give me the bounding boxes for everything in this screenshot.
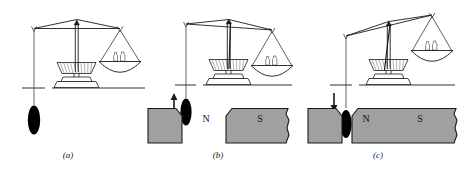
panel-a xyxy=(22,20,145,135)
weighing-pan-a xyxy=(99,30,141,72)
weighing-pan-c xyxy=(411,17,453,62)
panel-caption-b: (b) xyxy=(198,150,238,160)
pointer-scale-a xyxy=(57,63,96,74)
calibration-weights-c xyxy=(426,41,437,50)
balance-base-c xyxy=(366,69,411,85)
magnet-pole-label-south-c: S xyxy=(412,113,428,124)
sample-suspension-a xyxy=(28,30,40,135)
magnet-north-c xyxy=(308,109,342,144)
magnet-pole-label-south-b: S xyxy=(252,113,268,124)
panel-b xyxy=(148,19,293,143)
sample-specimen-a xyxy=(28,106,40,135)
balance-base-a xyxy=(54,72,99,88)
weighing-pan-b xyxy=(251,32,293,77)
sample-suspension-b xyxy=(180,26,191,126)
panel-caption-a: (a) xyxy=(48,150,88,160)
magnet-pole-label-north-b: N xyxy=(198,113,214,124)
calibration-weights-a xyxy=(114,52,125,61)
magnet-pole-label-north-c: N xyxy=(358,113,374,124)
panel-c xyxy=(308,13,457,143)
balance-base-b xyxy=(206,69,251,85)
panel-caption-c: (c) xyxy=(358,150,398,160)
magnet-north-b xyxy=(148,109,182,144)
gouy-balance-figure xyxy=(0,0,466,171)
calibration-weights-b xyxy=(266,56,277,65)
pointer-scale-c xyxy=(369,60,408,71)
